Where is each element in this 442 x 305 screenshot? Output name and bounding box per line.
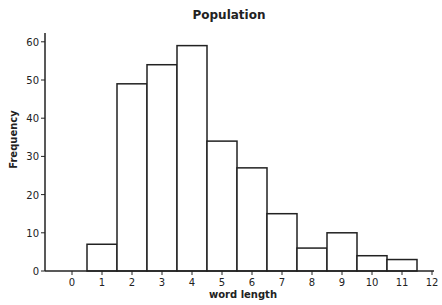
histogram-bar xyxy=(387,260,417,271)
y-tick-label: 50 xyxy=(26,75,39,86)
x-tick-label: 1 xyxy=(99,277,105,288)
x-tick-label: 4 xyxy=(189,277,195,288)
y-tick-label: 40 xyxy=(26,113,39,124)
histogram-bar xyxy=(357,256,387,271)
x-tick-label: 7 xyxy=(279,277,285,288)
x-tick-label: 6 xyxy=(249,277,255,288)
x-tick-label: 2 xyxy=(129,277,135,288)
x-tick-label: 0 xyxy=(69,277,75,288)
x-tick-label: 11 xyxy=(396,277,409,288)
x-tick-label: 3 xyxy=(159,277,165,288)
histogram-bar xyxy=(327,233,357,271)
histogram-bar xyxy=(267,214,297,271)
histogram-bar xyxy=(87,244,117,271)
y-tick-label: 20 xyxy=(26,190,39,201)
histogram-bar xyxy=(297,248,327,271)
x-tick-label: 8 xyxy=(309,277,315,288)
histogram-bar xyxy=(147,65,177,271)
y-tick-label: 30 xyxy=(26,151,39,162)
x-tick-label: 5 xyxy=(219,277,225,288)
histogram-plot: 01020304050600123456789101112 xyxy=(0,0,442,305)
y-tick-label: 10 xyxy=(26,228,39,239)
y-tick-label: 0 xyxy=(33,266,39,277)
histogram-bar xyxy=(237,168,267,271)
histogram-bar xyxy=(117,84,147,271)
x-tick-label: 12 xyxy=(426,277,439,288)
histogram-bar xyxy=(207,141,237,271)
x-tick-label: 9 xyxy=(339,277,345,288)
x-tick-label: 10 xyxy=(366,277,379,288)
histogram-bar xyxy=(177,46,207,271)
bars-group xyxy=(87,46,417,271)
y-tick-label: 60 xyxy=(26,37,39,48)
